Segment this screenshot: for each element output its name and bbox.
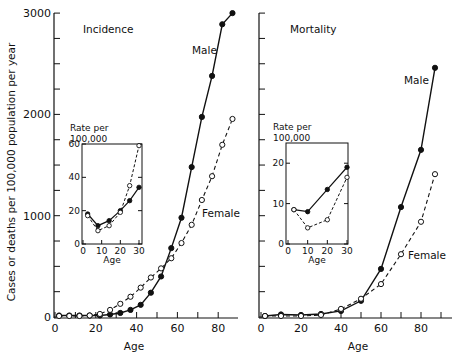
inset-male-point (96, 223, 100, 227)
inset-y-tick: 10 (273, 199, 285, 209)
inset-y-tick: 40 (69, 172, 81, 182)
panel-title-mortality: Mortality (290, 23, 337, 35)
female-point (138, 285, 143, 290)
inset-x-tick: 0 (285, 246, 291, 256)
male-point (230, 11, 235, 16)
inset-male-point (127, 198, 131, 202)
female-point (199, 197, 204, 202)
inset-male-point (345, 165, 349, 169)
x-tick-label: 80 (211, 322, 225, 335)
inset-ylabel-line1: Rate per (70, 123, 109, 133)
inset-female-point (85, 213, 89, 217)
inset-female-point (292, 207, 296, 211)
label-male-incidence: Male (192, 44, 217, 56)
inset-frame (286, 143, 348, 244)
figure: Cases or deaths per 100,000 population p… (0, 0, 464, 362)
female-point (298, 313, 303, 318)
inset-ylabel-line1: Rate per (273, 122, 312, 132)
inset-female-point (325, 218, 329, 222)
x-axis-title-mortality: Age (348, 340, 368, 352)
inset-female-point (305, 226, 309, 230)
female-point (378, 281, 383, 286)
x-tick-label: 0 (258, 322, 265, 335)
inset-x-tick: 30 (341, 246, 353, 256)
inset-y-tick: 20 (69, 206, 81, 216)
y-tick-label: 3000 (23, 7, 51, 20)
female-point (67, 313, 72, 318)
male-point (220, 22, 225, 27)
female-point (118, 301, 123, 306)
female-point (358, 296, 363, 301)
mortality-inset: 010200102030Rate per100,000Age (273, 122, 353, 265)
female-point (189, 222, 194, 227)
inset-male-point (325, 187, 329, 191)
x-tick-label: 40 (334, 322, 348, 335)
female-point (230, 116, 235, 121)
female-point (158, 266, 163, 271)
x-tick-label: 0 (52, 322, 59, 335)
inset-y-tick: 20 (273, 158, 285, 168)
x-tick-label: 60 (374, 322, 388, 335)
male-point (179, 215, 184, 220)
inset-x-tick: 0 (80, 246, 86, 256)
female-point (432, 172, 437, 177)
female-point (398, 252, 403, 257)
female-point (77, 313, 82, 318)
label-male-mortality: Male (404, 74, 429, 86)
female-point (338, 306, 343, 311)
inset-male-point (137, 185, 141, 189)
inset-y-tick: 0 (278, 239, 284, 249)
inset-ylabel-line2: 100,000 (70, 134, 107, 144)
male-point (398, 204, 403, 209)
x-tick-label: 20 (294, 322, 308, 335)
female-point (262, 313, 267, 318)
male-point (199, 114, 204, 119)
inset-male-point (107, 218, 111, 222)
female-point (87, 313, 92, 318)
y-axis-title: Cases or deaths per 100,000 population p… (5, 42, 17, 301)
x-tick-label: 80 (414, 322, 428, 335)
female-point (107, 307, 112, 312)
inset-xlabel: Age (103, 255, 121, 265)
male-point (138, 302, 143, 307)
female-point (56, 313, 61, 318)
inset-frame (82, 144, 142, 244)
female-point (220, 142, 225, 147)
male-point (128, 307, 133, 312)
label-female-mortality: Female (408, 249, 446, 261)
inset-x-tick: 30 (133, 246, 145, 256)
x-axis-title-incidence: Age (124, 340, 144, 352)
male-point (118, 310, 123, 315)
x-tick-label: 40 (130, 322, 144, 335)
male-point (418, 147, 423, 152)
incidence-inset: 02040600102030Rate per100,000Age (69, 123, 145, 265)
y-tick-label: 2000 (23, 108, 51, 121)
female-point (418, 219, 423, 224)
female-point (148, 275, 153, 280)
inset-female-point (127, 183, 131, 187)
panel-title-incidence: Incidence (83, 23, 133, 35)
male-point (432, 65, 437, 70)
x-tick-label: 60 (170, 322, 184, 335)
female-point (179, 240, 184, 245)
female-point (97, 311, 102, 316)
male-point (148, 290, 153, 295)
female-point (278, 313, 283, 318)
male-point (189, 164, 194, 169)
female-point (169, 256, 174, 261)
male-point (169, 246, 174, 251)
mortality-panel: Mortality 020406080 Male Female Age 0102… (258, 13, 453, 352)
male-point (158, 274, 163, 279)
y-tick-label: 0 (44, 311, 51, 324)
inset-female-point (345, 175, 349, 179)
inset-ylabel-line2: 100,000 (273, 133, 310, 143)
label-female-incidence: Female (202, 207, 240, 219)
inset-female-point (137, 143, 141, 147)
incidence-panel: Incidence 0100020003000020406080 Male Fe… (23, 7, 240, 352)
male-point (209, 73, 214, 78)
inset-female-point (96, 228, 100, 232)
female-point (318, 312, 323, 317)
female-point (128, 294, 133, 299)
x-tick-label: 20 (89, 322, 103, 335)
inset-female-point (107, 223, 111, 227)
